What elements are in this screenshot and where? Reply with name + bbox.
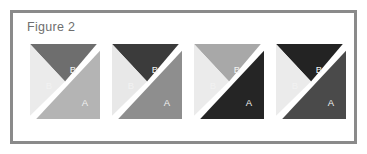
label-a: A [82, 97, 89, 108]
figure-frame: Figure 2 BBABBABBABBA [10, 10, 357, 144]
label-b-left: B [46, 80, 52, 91]
square-shape-2: BBA [112, 44, 182, 119]
label-a: A [164, 97, 171, 108]
square-shape-1: BBA [30, 44, 100, 119]
squares-row: BBABBABBABBA [27, 44, 346, 124]
square-diagram: BBA [276, 44, 346, 119]
square-shape-4: BBA [276, 44, 346, 119]
square-diagram: BBA [112, 44, 182, 119]
label-b-top: B [152, 64, 158, 75]
square-shape-3: BBA [194, 44, 264, 119]
label-b-left: B [292, 80, 298, 91]
label-a: A [328, 97, 335, 108]
label-a: A [246, 97, 253, 108]
label-b-left: B [128, 80, 134, 91]
label-b-left: B [210, 80, 216, 91]
square-diagram: BBA [194, 44, 264, 119]
figure-caption: Figure 2 [27, 20, 75, 34]
label-b-top: B [234, 64, 240, 75]
label-b-top: B [316, 64, 322, 75]
square-diagram: BBA [30, 44, 100, 119]
label-b-top: B [70, 64, 76, 75]
